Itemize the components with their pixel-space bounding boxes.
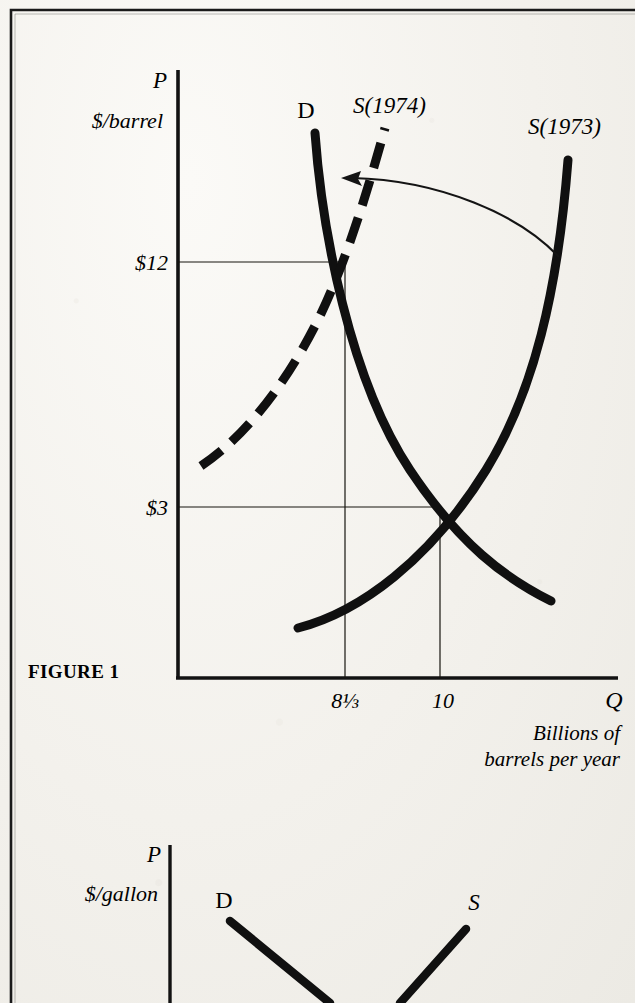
page-border-inner — [15, 14, 635, 1003]
supply-shift-arrow-line — [352, 178, 559, 257]
curve-label-supply-1974: S(1974) — [353, 93, 426, 118]
x-axis-label-figure-1: Q — [605, 687, 622, 713]
curve-demand-figure-2 — [230, 921, 330, 1003]
curve-label-supply-1973: S(1973) — [528, 114, 601, 139]
x-axis-unit-line-2: barrels per year — [484, 747, 621, 771]
curve-label-demand-figure-2: D — [215, 887, 232, 913]
xtick-label-8-1-3: 8⅓ — [331, 688, 359, 713]
curve-label-demand-figure-1: D — [297, 97, 314, 123]
y-axis-label-figure-1: P — [152, 68, 167, 93]
ytick-label-12: $12 — [135, 250, 168, 275]
x-axis-unit-line-1: Billions of — [533, 721, 623, 745]
ytick-label-3: $3 — [146, 495, 168, 520]
curve-supply-figure-2 — [400, 929, 466, 1003]
curve-demand-figure-1 — [315, 133, 551, 601]
curve-label-supply-figure-2: S — [468, 890, 480, 915]
figure-1-chart: P $/barrel $12 $3 8⅓ 10 Q Billions of ba… — [0, 0, 635, 1003]
xtick-label-10: 10 — [432, 688, 454, 713]
figure-caption: FIGURE 1 — [28, 661, 119, 682]
scanned-page: P $/barrel $12 $3 8⅓ 10 Q Billions of ba… — [0, 0, 635, 1003]
y-axis-label-figure-2: P — [146, 842, 161, 867]
y-axis-unit-figure-2: $/gallon — [85, 881, 158, 906]
y-axis-unit-figure-1: $/barrel — [92, 108, 163, 133]
